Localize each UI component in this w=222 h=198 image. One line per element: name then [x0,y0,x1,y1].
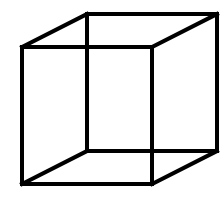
necker-cube-diagram [0,0,222,198]
cube-edge-front-top-right-to-back-top-right [152,14,217,47]
cube-edge-front-top-left-to-back-top-left [22,14,87,47]
cube-edge-front-bottom-left-to-back-bottom-left [22,151,87,184]
cube-edge-front-bottom-right-to-back-bottom-right [152,151,217,184]
cube-wireframe [0,0,222,198]
